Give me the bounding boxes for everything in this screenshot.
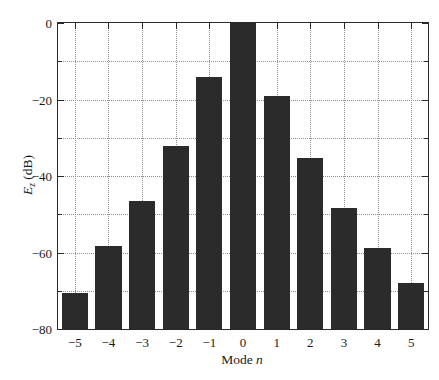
x-axis-tick-label: −1	[202, 336, 216, 349]
y-axis-tick-right	[422, 329, 428, 330]
bar	[95, 246, 121, 329]
x-axis-tick-label: 5	[408, 336, 415, 349]
bar	[129, 201, 155, 329]
x-axis-tick-label: −2	[169, 336, 183, 349]
x-axis-tick-label: 0	[240, 336, 247, 349]
x-axis-tick-label: 4	[374, 336, 381, 349]
x-axis-title-text: Mode	[221, 352, 253, 367]
bar	[331, 208, 357, 329]
x-axis-tick-label: −4	[102, 336, 116, 349]
bar	[264, 96, 290, 329]
y-axis-tick-left	[58, 329, 64, 330]
bar-series	[58, 23, 428, 329]
x-axis-tick-label: 2	[307, 336, 314, 349]
bar	[364, 248, 390, 329]
figure-canvas: 0−20−40−60−80 −5−4−3−2−1012345 Mode n Ez…	[0, 0, 439, 380]
bar	[62, 293, 88, 329]
bar	[163, 146, 189, 329]
bar	[398, 283, 424, 329]
bar	[230, 23, 256, 329]
x-axis-tick-label: 3	[341, 336, 348, 349]
y-axis-title-subscript: z	[27, 183, 37, 187]
y-axis-tick-label: −60	[32, 246, 52, 259]
y-axis-title-text: E	[20, 187, 35, 195]
bar	[297, 158, 323, 329]
x-axis-title: Mode n	[57, 353, 427, 367]
x-axis-title-variable: n	[256, 352, 263, 367]
x-axis-tick-label: −5	[68, 336, 82, 349]
x-axis-tick-label: 1	[273, 336, 280, 349]
y-axis-tick-label: 0	[46, 17, 53, 30]
y-axis-tick-label: −80	[32, 323, 52, 336]
x-axis-tick-label: −3	[135, 336, 149, 349]
bar	[196, 77, 222, 329]
y-axis-title-unit: (dB)	[20, 155, 35, 183]
y-axis-tick-label: −20	[32, 93, 52, 106]
plot-area: 0−20−40−60−80 −5−4−3−2−1012345	[57, 22, 429, 330]
